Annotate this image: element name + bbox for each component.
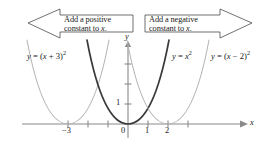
x-tick-label-1: 1 bbox=[145, 126, 149, 135]
origin-label: 0 bbox=[121, 126, 125, 135]
x-axis-label: x bbox=[250, 118, 254, 127]
curve-label-base: y = x2 bbox=[172, 51, 192, 61]
y-tick-label-1: 1 bbox=[116, 98, 120, 107]
x-tick-label-minus3: −3 bbox=[62, 126, 71, 135]
right-callout-line1: Add a negative bbox=[149, 15, 198, 25]
left-callout-text: Add a positive constant to x. bbox=[64, 15, 111, 34]
left-callout-line1: Add a positive bbox=[64, 15, 111, 25]
right-callout-line2: constant to x. bbox=[149, 24, 198, 34]
figure-container: Add a positive constant to x. Add a nega… bbox=[0, 0, 278, 150]
curve-label-shift-left: y = (x + 3)2 bbox=[27, 51, 66, 61]
right-callout-text: Add a negative constant to x. bbox=[149, 15, 198, 34]
y-axis-label: y bbox=[125, 32, 129, 41]
left-callout-line2: constant to x. bbox=[64, 24, 111, 34]
curve-label-shift-right: y = (x − 2)2 bbox=[211, 51, 250, 61]
callouts-canvas bbox=[0, 0, 278, 150]
x-tick-label-2: 2 bbox=[165, 126, 169, 135]
